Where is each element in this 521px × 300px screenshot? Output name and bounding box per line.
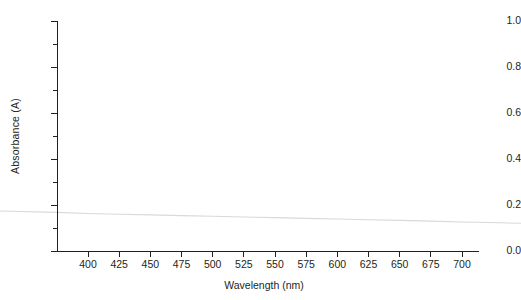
x-tick-major xyxy=(306,252,307,257)
x-tick-major xyxy=(243,252,244,257)
x-tick-label: 450 xyxy=(142,259,160,270)
x-tick-major xyxy=(368,252,369,257)
y-tick-minor xyxy=(53,228,57,229)
y-tick-label: 0.8 xyxy=(473,61,521,72)
x-tick-label: 650 xyxy=(391,259,409,270)
absorbance-spectrum-figure: 0.00.20.40.60.81.0 400425450475500525550… xyxy=(0,0,521,300)
x-tick-major xyxy=(212,252,213,257)
y-tick-major xyxy=(51,113,57,114)
absorbance-trace xyxy=(0,211,521,223)
x-tick-major xyxy=(119,252,120,257)
x-tick-label: 500 xyxy=(204,259,222,270)
y-tick-label: 1.0 xyxy=(473,15,521,26)
x-axis-spine xyxy=(57,251,479,252)
x-tick-major xyxy=(337,252,338,257)
x-tick-label: 700 xyxy=(453,259,471,270)
y-tick-label: 0.6 xyxy=(473,107,521,118)
x-tick-label: 425 xyxy=(110,259,128,270)
x-tick-major xyxy=(150,252,151,257)
x-tick-label: 400 xyxy=(79,259,97,270)
y-tick-major xyxy=(51,67,57,68)
y-tick-label: 0.0 xyxy=(473,245,521,256)
x-tick-label: 575 xyxy=(297,259,315,270)
y-tick-minor xyxy=(53,136,57,137)
y-tick-major xyxy=(51,159,57,160)
y-tick-label: 0.2 xyxy=(473,199,521,210)
x-axis-label-container: Wavelength (nm) xyxy=(0,279,521,291)
y-axis-label: Absorbance (A) xyxy=(9,21,25,252)
y-tick-major xyxy=(51,251,57,252)
x-tick-major xyxy=(275,252,276,257)
x-tick-label: 600 xyxy=(329,259,347,270)
x-tick-major xyxy=(430,252,431,257)
y-tick-minor xyxy=(53,44,57,45)
y-axis-spine xyxy=(57,21,58,252)
y-tick-major xyxy=(51,21,57,22)
y-tick-minor xyxy=(53,90,57,91)
x-tick-label: 475 xyxy=(173,259,191,270)
y-tick-major xyxy=(51,205,57,206)
x-tick-label: 625 xyxy=(360,259,378,270)
x-tick-major xyxy=(462,252,463,257)
x-tick-label: 675 xyxy=(422,259,440,270)
x-tick-label: 550 xyxy=(266,259,284,270)
y-tick-label: 0.4 xyxy=(473,153,521,164)
x-tick-major xyxy=(88,252,89,257)
spectrum-line-plot xyxy=(0,0,521,300)
x-tick-major xyxy=(181,252,182,257)
x-tick-major xyxy=(399,252,400,257)
y-tick-minor xyxy=(53,182,57,183)
x-tick-label: 525 xyxy=(235,259,253,270)
x-axis-label: Wavelength (nm) xyxy=(224,279,304,291)
